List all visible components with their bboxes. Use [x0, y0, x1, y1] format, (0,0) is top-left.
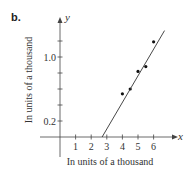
y-axis-label: In units of a thousand	[23, 37, 34, 124]
y-axis-symbol: y	[64, 11, 70, 23]
y-axis-arrow-icon	[58, 17, 63, 23]
axes	[40, 17, 178, 157]
data-series	[102, 31, 164, 137]
data-point	[152, 40, 155, 43]
data-point	[121, 92, 124, 95]
y-tick-label: 1.0	[44, 52, 57, 63]
x-tick-label: 5	[136, 141, 141, 152]
x-tick-label: 4	[120, 141, 125, 152]
data-point	[136, 70, 139, 73]
y-tick-label: 0.2	[44, 116, 57, 127]
x-tick-label: 6	[151, 141, 156, 152]
fitted-line	[102, 31, 164, 137]
x-tick-label: 1	[73, 141, 78, 152]
x-tick-label: 2	[89, 141, 94, 152]
x-axis-symbol: x	[177, 130, 183, 142]
x-tick-label: 3	[104, 141, 109, 152]
x-axis-label: In units of a thousand	[67, 156, 154, 167]
scatter-chart: 1234560.21.0 x y In units of a thousand …	[0, 0, 194, 172]
data-point	[144, 65, 147, 68]
